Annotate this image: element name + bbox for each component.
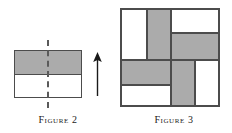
figure-2-panel: Figure 2 bbox=[0, 0, 116, 133]
tile-bottom-left-white bbox=[121, 85, 171, 106]
figure-3-square bbox=[120, 8, 220, 107]
tile-top-right-gray bbox=[171, 33, 219, 60]
tile-bottom-right-white bbox=[195, 60, 219, 106]
tile-top-left-gray bbox=[147, 9, 171, 60]
up-arrow-icon bbox=[92, 52, 103, 96]
figure-3-panel: Figure 3 bbox=[116, 0, 232, 133]
tile-bottom-left-gray bbox=[121, 60, 171, 85]
figure-2-caption: Figure 2 bbox=[0, 114, 116, 125]
tile-top-left-white bbox=[121, 9, 147, 60]
figure-3-caption: Figure 3 bbox=[116, 114, 232, 125]
tile-top-right-white bbox=[171, 9, 219, 33]
tile-bottom-center-gray bbox=[171, 60, 195, 106]
figure-2-dashed-midline bbox=[47, 40, 49, 108]
